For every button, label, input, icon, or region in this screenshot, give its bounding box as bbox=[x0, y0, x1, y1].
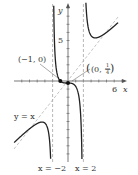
asymptote-right-label: x = 2 bbox=[75, 164, 96, 173]
fraction-num: 1 bbox=[106, 62, 109, 68]
y-axis-arrow-icon bbox=[66, 3, 70, 8]
point-neg1-0 bbox=[58, 79, 62, 83]
x-axis-label: x bbox=[123, 85, 128, 94]
point-0-neg-quarter bbox=[66, 81, 70, 85]
point-a-label: (−1, 0) bbox=[18, 55, 46, 64]
curve-left-branch bbox=[14, 122, 51, 159]
fraction-den: 4 bbox=[106, 69, 109, 75]
y-axis-label: y bbox=[57, 6, 63, 15]
x-axis-arrow-icon bbox=[122, 79, 127, 83]
asymptote-left-label: x = −2 bbox=[38, 164, 66, 173]
tick-label-6: 6 bbox=[112, 85, 117, 94]
function-graph: y x 6 5 (−1, 0) ( (0, − 1 4 ) y = x x = … bbox=[0, 0, 138, 175]
curve-right-branch bbox=[86, 3, 118, 38]
tick-label-5: 5 bbox=[58, 36, 63, 45]
slant-asymptote-label: y = x bbox=[13, 112, 35, 121]
paren-close: ) bbox=[110, 62, 114, 75]
point-b-label: ( (0, − 1 4 ) bbox=[86, 62, 114, 75]
paren-open: ( bbox=[86, 62, 90, 75]
